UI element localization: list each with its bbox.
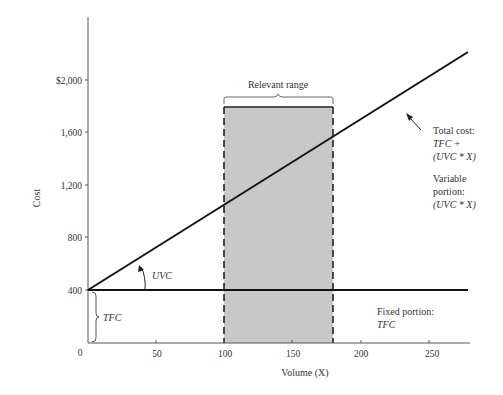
y-tick-1600: 1,600 bbox=[61, 128, 83, 138]
tfc-brace bbox=[92, 292, 99, 342]
fixed-portion-label-line1: Fixed portion: bbox=[377, 306, 434, 317]
total-cost-pointer bbox=[410, 118, 421, 130]
x-tick-50: 50 bbox=[152, 349, 162, 359]
relevant-range-label: Relevant range bbox=[248, 79, 309, 90]
x-axis-label: Volume (X) bbox=[281, 367, 328, 379]
uvc-label: UVC bbox=[152, 270, 172, 281]
y-tick-1200: 1,200 bbox=[61, 181, 83, 191]
x-tick-200: 200 bbox=[354, 349, 369, 359]
x-tick-100: 100 bbox=[218, 349, 233, 359]
fixed-portion-label-line2: TFC bbox=[377, 319, 396, 330]
x-tick-150: 150 bbox=[286, 349, 301, 359]
cost-volume-chart: Relevant range $2,000 1,600 1,200 800 40… bbox=[0, 0, 503, 395]
total-cost-label-line2: TFC + bbox=[433, 138, 461, 149]
y-tick-400: 400 bbox=[68, 286, 83, 296]
x-origin-label: 0 bbox=[78, 348, 83, 358]
tfc-label: TFC bbox=[103, 312, 122, 323]
variable-portion-label-line2: portion: bbox=[433, 186, 465, 197]
total-cost-label-line1: Total cost: bbox=[433, 125, 475, 136]
relevant-range-brace bbox=[224, 94, 333, 104]
y-axis-label: Cost bbox=[31, 189, 42, 208]
total-cost-label-line3: (UVC * X) bbox=[433, 151, 476, 163]
variable-portion-label-line3: (UVC * X) bbox=[433, 199, 476, 211]
relevant-range-shading bbox=[224, 107, 333, 343]
y-tick-800: 800 bbox=[68, 233, 83, 243]
y-tick-2000: $2,000 bbox=[56, 76, 82, 86]
x-tick-250: 250 bbox=[425, 349, 440, 359]
variable-portion-label-line1: Variable bbox=[433, 173, 467, 184]
